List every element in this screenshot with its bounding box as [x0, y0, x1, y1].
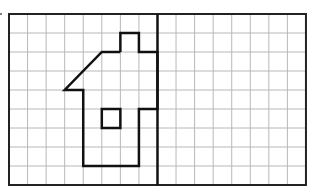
corner-dot: [0, 13, 2, 15]
house-outline: [65, 33, 158, 166]
grid-diagram: [0, 0, 312, 193]
house-window: [102, 109, 121, 128]
